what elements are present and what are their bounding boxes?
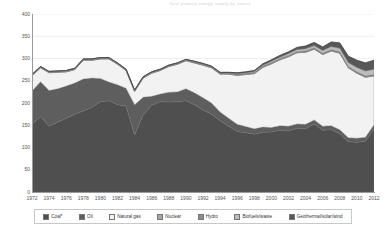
legend-swatch-icon <box>79 214 85 220</box>
x-axis-tick-labels: 1972197419761978198019821984198619881990… <box>0 195 388 205</box>
legend-swatch-icon <box>198 214 204 220</box>
legend-item[interactable]: Natural gas <box>109 214 141 220</box>
legend-item[interactable]: Coal* <box>43 214 62 220</box>
legend-item-label: Nuclear <box>165 214 181 219</box>
legend-item[interactable]: Geothermal/solar/wind <box>289 214 343 220</box>
area-series-svg <box>32 14 374 192</box>
x-axis-tick-label: 2012 <box>363 195 385 201</box>
y-axis-tick-label: 50 <box>4 167 30 172</box>
legend-swatch-icon <box>157 214 163 220</box>
legend-item[interactable]: Hydro <box>198 214 218 220</box>
legend-swatch-icon <box>43 214 49 220</box>
legend-item[interactable]: Oil <box>79 214 93 220</box>
stacked-area-chart: Total primary energy supply by source 05… <box>0 0 388 230</box>
legend-item-label: Geothermal/solar/wind <box>297 214 343 219</box>
y-axis-tick-label: 250 <box>4 78 30 83</box>
legend-item[interactable]: Nuclear <box>157 214 181 220</box>
legend-item-label: Hydro <box>206 214 218 219</box>
y-axis-tick-label: 300 <box>4 56 30 61</box>
chart-title: Total primary energy supply by source <box>150 1 270 6</box>
y-axis-tick-label: 150 <box>4 123 30 128</box>
legend-item-label: Oil <box>87 214 93 219</box>
x-axis-line <box>32 192 375 193</box>
y-axis-tick-label: 350 <box>4 34 30 39</box>
y-axis-tick-label: 0 <box>4 190 30 195</box>
y-axis-tick-label: 100 <box>4 145 30 150</box>
y-axis-line <box>32 14 33 193</box>
legend-item-label: Coal* <box>51 214 62 219</box>
y-axis-tick-label: 200 <box>4 101 30 106</box>
y-axis-tick-label: 400 <box>4 12 30 17</box>
chart-legend: Coal*OilNatural gasNuclearHydroBiofuels/… <box>34 209 352 224</box>
legend-item-label: Biofuels/waste <box>242 214 272 219</box>
legend-swatch-icon <box>234 214 240 220</box>
legend-swatch-icon <box>289 214 295 220</box>
legend-item[interactable]: Biofuels/waste <box>234 214 272 220</box>
legend-swatch-icon <box>109 214 115 220</box>
plot-area <box>32 14 374 192</box>
legend-item-label: Natural gas <box>117 214 141 219</box>
